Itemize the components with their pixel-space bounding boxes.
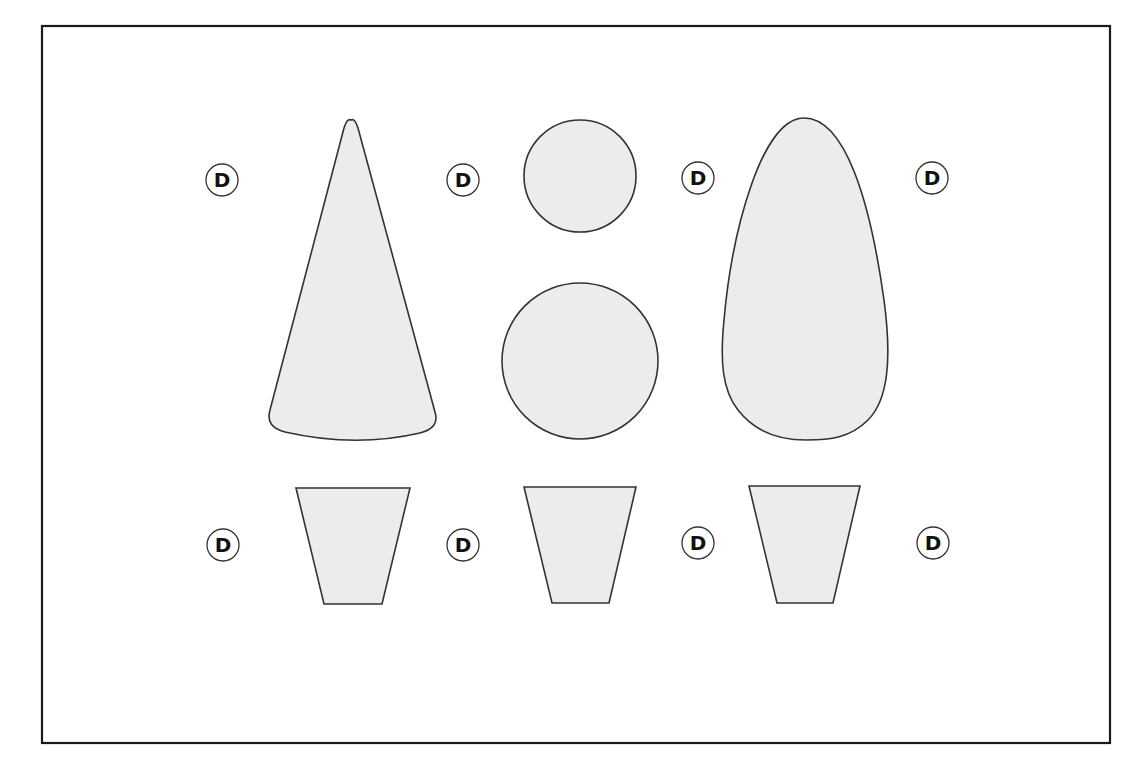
d-label-8: D [917,527,949,559]
d-label-7: D [682,527,714,559]
d-label-5: D [207,529,239,561]
d-label-2: D [447,164,479,196]
d-label-1: D [206,164,238,196]
small-circle-shape [524,120,636,232]
diagram-canvas: D D D D D D D D [0,0,1142,775]
d-label-3: D [682,162,714,194]
d-label-text: D [455,168,472,192]
d-label-text: D [455,533,472,557]
d-label-text: D [690,531,707,555]
d-label-6: D [447,529,479,561]
d-label-text: D [215,533,232,557]
d-label-text: D [214,168,231,192]
d-label-text: D [924,166,941,190]
large-circle-shape [502,283,658,439]
d-label-text: D [690,166,707,190]
d-label-text: D [925,531,942,555]
d-label-4: D [916,162,948,194]
